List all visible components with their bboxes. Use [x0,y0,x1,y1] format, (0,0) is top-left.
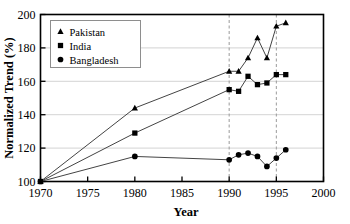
series-india [38,72,289,184]
x-tick-label: 2000 [312,186,336,200]
line-chart: 1001201401601802001970197519801985199019… [0,0,350,224]
x-tick-label: 1985 [170,186,194,200]
x-tick-label: 1970 [29,186,53,200]
legend: PakistanIndiaBangladesh [51,21,141,68]
x-tick-label: 1980 [123,186,147,200]
x-axis-title: Year [174,205,199,219]
chart-container: 1001201401601802001970197519801985199019… [0,0,350,224]
y-tick-label: 200 [18,8,36,22]
legend-label: India [70,41,92,52]
y-tick-label: 120 [18,141,36,155]
y-tick-label: 140 [18,108,36,122]
y-tick-label: 160 [18,75,36,89]
y-tick-label: 180 [18,41,36,55]
y-axis-title: Normalized Trend (%) [2,37,16,159]
x-tick-label: 1990 [217,186,241,200]
legend-label: Pakistan [70,27,106,38]
x-tick-label: 1975 [76,186,100,200]
legend-label: Bangladesh [70,55,120,66]
series-bangladesh [38,147,289,184]
x-tick-label: 1995 [264,186,288,200]
